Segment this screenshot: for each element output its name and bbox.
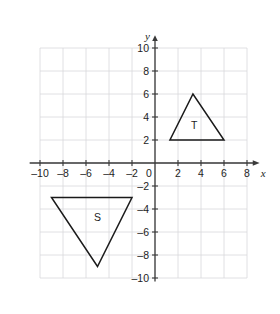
- x-tick-label: –2: [126, 167, 138, 179]
- graph-canvas: –10–8–6–4–202468108642–2–4–6–8–10 TS xy: [0, 0, 280, 314]
- y-tick-label: 10: [137, 42, 149, 54]
- x-tick-label: 4: [198, 167, 204, 179]
- y-tick-label: 6: [143, 88, 149, 100]
- x-tick-label: 6: [221, 167, 227, 179]
- y-tick-label: –2: [137, 180, 149, 192]
- y-tick-label: 4: [143, 111, 149, 123]
- x-tick-label: –8: [57, 167, 69, 179]
- y-tick-label: –4: [137, 203, 149, 215]
- y-tick-label: 2: [143, 134, 149, 146]
- triangle-t-label: T: [191, 119, 198, 131]
- x-tick-label: –10: [31, 167, 49, 179]
- coordinate-plane-graph: –10–8–6–4–202468108642–2–4–6–8–10 TS xy: [0, 0, 280, 314]
- y-tick-label: –8: [137, 249, 149, 261]
- x-tick-label: –4: [103, 167, 115, 179]
- y-tick-label: 8: [143, 65, 149, 77]
- x-tick-label: –6: [80, 167, 92, 179]
- x-axis-name: x: [260, 167, 266, 179]
- y-tick-label: –10: [131, 272, 149, 284]
- y-axis-name: y: [144, 30, 150, 42]
- x-tick-label: 0: [146, 167, 152, 179]
- triangle-s-label: S: [94, 211, 101, 223]
- x-tick-label: 2: [175, 167, 181, 179]
- y-tick-label: –6: [137, 226, 149, 238]
- x-tick-label: 8: [244, 167, 250, 179]
